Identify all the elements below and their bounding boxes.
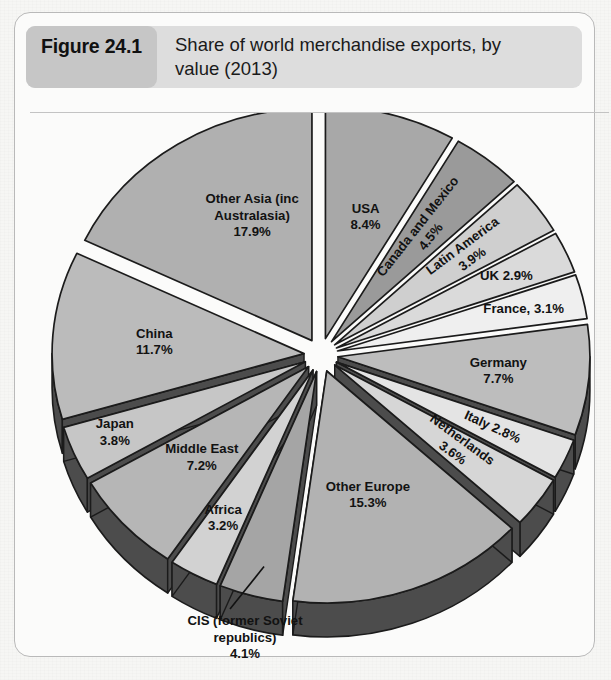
figure-number-badge: Figure 24.1 (26, 26, 157, 88)
figure-frame: USA8.4%Canada and Mexico4.5%Latin Americ… (14, 12, 595, 657)
slice-label: USA8.4% (351, 201, 381, 233)
figure-number-label: Figure 24.1 (41, 35, 142, 58)
slice-label: Africa3.2% (204, 502, 242, 534)
callout-label-cis: CIS (former Sovietrepublics)4.1% (187, 613, 303, 661)
figure-title-line-1: Share of world merchandise exports, by (175, 33, 501, 57)
slice-label: UK 2.9% (480, 269, 533, 284)
slice-label: China11.7% (136, 326, 173, 358)
figure-title: Share of world merchandise exports, by v… (157, 26, 511, 80)
pie-chart-svg: USA8.4%Canada and Mexico4.5%Latin Americ… (30, 113, 611, 669)
figure-title-line-2: value (2013) (175, 57, 501, 81)
figure-header-band: Figure 24.1 Share of world merchandise e… (26, 26, 582, 88)
slice-label: Japan3.8% (96, 416, 134, 448)
slice-label: France, 3.1% (483, 301, 564, 316)
page-background: USA8.4%Canada and Mexico4.5%Latin Americ… (0, 0, 611, 680)
pie-chart-area: USA8.4%Canada and Mexico4.5%Latin Americ… (30, 113, 611, 669)
